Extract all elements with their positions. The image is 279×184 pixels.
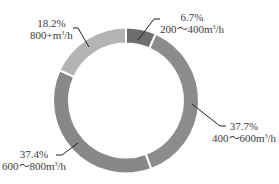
slice-400-600	[146, 34, 199, 169]
slice-range: 200～400m3/h	[160, 23, 224, 35]
slice-pct: 6.7%	[160, 11, 224, 23]
slice-range: 800+m3/h	[30, 29, 73, 41]
slice-label-200-400: 6.7% 200～400m3/h	[160, 11, 224, 35]
slice-pct: 18.2%	[30, 17, 73, 29]
slice-600-800	[53, 70, 151, 173]
slice-label-400-600: 37.7% 400～600m3/h	[212, 120, 276, 144]
slice-label-800-plus: 18.2% 800+m3/h	[30, 17, 73, 41]
slice-range: 600～800m3/h	[2, 160, 66, 172]
slice-label-600-800: 37.4% 600～800m3/h	[2, 148, 66, 172]
donut-slices	[53, 28, 199, 174]
slice-range: 400～600m3/h	[212, 132, 276, 144]
slice-pct: 37.4%	[2, 148, 66, 160]
slice-pct: 37.7%	[212, 120, 276, 132]
